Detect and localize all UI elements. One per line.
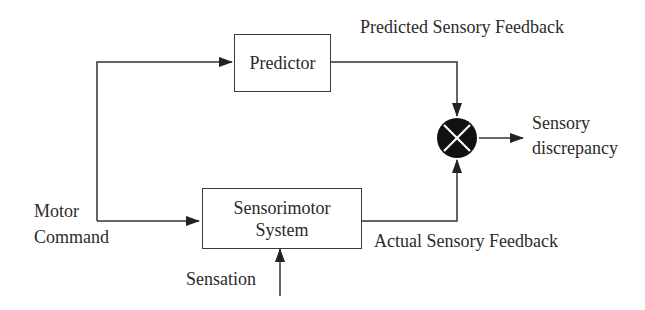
sensorimotor-system-block: Sensorimotor System <box>202 188 362 249</box>
motor-command-label-line2: Command <box>34 226 109 248</box>
sensorimotor-label-line2: System <box>255 219 308 241</box>
motor-command-label-line1: Motor <box>34 200 79 222</box>
comparator-x-icon <box>437 118 477 158</box>
actual-sensory-feedback-label: Actual Sensory Feedback <box>374 230 558 252</box>
sensory-discrepancy-label-line2: discrepancy <box>532 137 618 159</box>
predictor-block: Predictor <box>234 34 331 92</box>
sensory-discrepancy-label-line1: Sensory <box>532 112 590 134</box>
sensation-label: Sensation <box>186 268 256 290</box>
predicted-feedback-wire <box>331 62 457 116</box>
sensorimotor-label-line1: Sensorimotor <box>234 197 331 219</box>
predictor-label: Predictor <box>250 52 316 74</box>
actual-feedback-wire <box>362 160 457 221</box>
predicted-sensory-feedback-label: Predicted Sensory Feedback <box>360 16 564 38</box>
